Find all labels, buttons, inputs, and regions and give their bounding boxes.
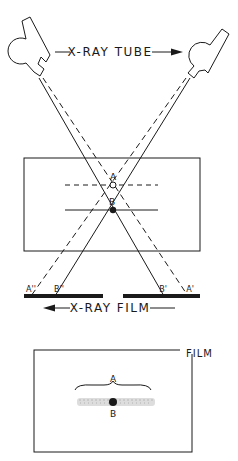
right-film-bar bbox=[123, 294, 200, 298]
stereo-xray-diagram: X-RAY TUBE A B A'' B'' B' A' X-RAY FILM … bbox=[0, 0, 238, 461]
ray-left-solid-to-b-prime bbox=[39, 78, 164, 296]
xray-tube-title: X-RAY TUBE bbox=[55, 45, 183, 59]
left-xray-tube-icon bbox=[8, 17, 50, 76]
xray-tube-label: X-RAY TUBE bbox=[67, 45, 152, 59]
point-a-open-circle bbox=[110, 182, 116, 188]
point-b-label: B bbox=[109, 197, 115, 207]
point-a-label: A bbox=[110, 172, 117, 182]
film-point-a-label: A bbox=[110, 374, 117, 384]
film-view-label: FILM bbox=[186, 348, 213, 359]
film-point-b-label: B bbox=[110, 409, 116, 419]
ray-right-solid-to-b-double-prime bbox=[55, 78, 190, 296]
left-film-bar bbox=[24, 294, 103, 298]
label-a-prime: A' bbox=[186, 285, 194, 294]
xray-film-label: X-RAY FILM bbox=[70, 301, 151, 315]
ray-right-dashed-to-a-double-prime bbox=[31, 78, 186, 296]
xray-film-title: X-RAY FILM bbox=[43, 301, 175, 315]
label-a-double-prime: A'' bbox=[26, 285, 36, 294]
arrow-right-icon bbox=[171, 49, 183, 56]
film-point-b-dot bbox=[109, 398, 117, 406]
right-xray-tube-icon bbox=[188, 29, 229, 78]
label-b-prime: B' bbox=[159, 285, 167, 294]
label-b-double-prime: B'' bbox=[54, 285, 64, 294]
point-b-filled-circle bbox=[110, 207, 116, 213]
